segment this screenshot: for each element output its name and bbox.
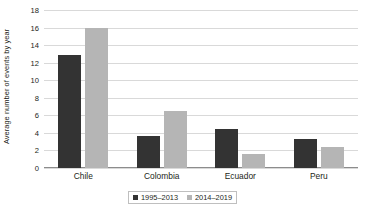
x-axis-tick-label: Chile: [44, 171, 123, 181]
y-axis-tick-label: 16: [31, 23, 39, 32]
legend-swatch-icon: [133, 195, 138, 200]
y-axis-tick-label: 8: [35, 93, 39, 102]
legend: 1995–20132014–2019: [0, 191, 365, 204]
gridline: [44, 168, 358, 169]
y-axis-tick-label: 10: [31, 76, 39, 85]
bar[interactable]: [321, 147, 344, 168]
x-axis-tick-labels: ChileColombiaEcuadorPeru: [44, 171, 358, 181]
bar-chart: Average number of events by year 1816141…: [0, 0, 365, 215]
y-axis-tick-label: 6: [35, 111, 39, 120]
bar[interactable]: [137, 136, 160, 168]
bar[interactable]: [215, 129, 238, 168]
x-axis-tick-label: Peru: [280, 171, 359, 181]
bar[interactable]: [58, 55, 81, 168]
x-axis-tick-label: Ecuador: [201, 171, 280, 181]
legend-box: 1995–20132014–2019: [128, 191, 237, 204]
legend-entry[interactable]: 2014–2019: [187, 193, 232, 202]
bar-group: [201, 10, 280, 168]
y-axis-title-text: Average number of events by year: [3, 28, 12, 143]
bar[interactable]: [294, 139, 317, 168]
bar-group: [123, 10, 202, 168]
y-axis-tick-label: 0: [35, 164, 39, 173]
y-axis-tick-label: 2: [35, 146, 39, 155]
y-axis-tick-label: 12: [31, 58, 39, 67]
y-axis-tick-label: 14: [31, 41, 39, 50]
legend-label: 1995–2013: [141, 193, 178, 202]
bar-group: [280, 10, 359, 168]
legend-swatch-icon: [187, 195, 192, 200]
bar-groups: [44, 10, 358, 168]
bar[interactable]: [85, 28, 108, 168]
bar-group: [44, 10, 123, 168]
x-axis-tick-label: Colombia: [123, 171, 202, 181]
y-axis-tick-label: 4: [35, 128, 39, 137]
y-axis-tick-label: 18: [31, 6, 39, 15]
legend-entry[interactable]: 1995–2013: [133, 193, 178, 202]
bar[interactable]: [242, 154, 265, 168]
y-axis-title: Average number of events by year: [0, 0, 14, 172]
y-axis-tick-labels: 181614121086420: [16, 10, 42, 168]
legend-label: 2014–2019: [195, 193, 232, 202]
bar[interactable]: [164, 111, 187, 168]
plot-area: [44, 10, 358, 168]
